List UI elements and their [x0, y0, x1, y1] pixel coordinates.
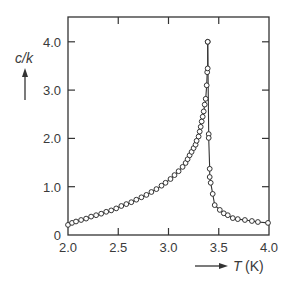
data-line — [208, 42, 268, 223]
data-point-marker — [124, 202, 129, 207]
x-axis-title-variable: T — [233, 258, 243, 274]
data-point-marker — [149, 190, 154, 195]
data-point-marker — [235, 217, 240, 222]
data-point-marker — [139, 195, 144, 200]
data-point-marker — [202, 102, 207, 107]
data-point-marker — [208, 180, 213, 185]
data-point-marker — [74, 219, 79, 224]
data-point-marker — [109, 208, 114, 213]
data-point-marker — [207, 175, 212, 180]
data-point-marker — [114, 206, 119, 211]
data-point-marker — [99, 211, 104, 216]
data-point-marker — [205, 66, 210, 71]
data-point-marker — [225, 213, 230, 218]
y-tick-label: 4.0 — [43, 35, 61, 50]
data-point-marker — [197, 129, 202, 134]
x-tick-label: 4.0 — [260, 240, 278, 255]
data-point-marker — [172, 173, 177, 178]
x-tick-label: 2.0 — [59, 240, 77, 255]
data-point-marker — [144, 193, 149, 198]
data-point-marker — [266, 221, 271, 226]
data-point-marker — [196, 134, 201, 139]
data-point-marker — [204, 83, 209, 88]
y-axis-arrow-icon — [22, 68, 28, 100]
plot-frame — [68, 17, 269, 235]
data-point-marker — [104, 209, 109, 214]
data-point-marker — [168, 177, 173, 182]
y-tick-label: 0 — [54, 228, 61, 243]
data-point-marker — [154, 187, 159, 192]
data-point-marker — [163, 180, 168, 185]
data-point-marker — [250, 219, 255, 224]
data-point-marker — [94, 213, 99, 218]
y-axis-title: c/k — [15, 50, 34, 66]
data-point-marker — [84, 216, 89, 221]
data-point-marker — [243, 218, 248, 223]
data-point-marker — [201, 109, 206, 114]
x-tick-label: 3.5 — [210, 240, 228, 255]
data-point-marker — [134, 197, 139, 202]
data-point-marker — [176, 169, 181, 174]
data-point-marker — [199, 119, 204, 124]
data-point-marker — [198, 124, 203, 129]
data-point-marker — [212, 203, 217, 208]
data-markers — [66, 39, 271, 227]
axis-ticks — [68, 17, 269, 235]
data-curves — [68, 42, 268, 225]
data-point-marker — [256, 220, 261, 225]
specific-heat-chart: 2.02.53.03.54.001.02.03.04.0 c/k T (K) — [0, 0, 290, 286]
data-point-marker — [206, 136, 211, 141]
x-axis-title-unit: (K) — [245, 258, 264, 274]
data-point-marker — [89, 214, 94, 219]
x-axis-arrow-icon — [195, 263, 228, 269]
y-tick-label: 3.0 — [43, 83, 61, 98]
data-point-marker — [200, 114, 205, 119]
y-tick-label: 2.0 — [43, 131, 61, 146]
data-point-marker — [119, 204, 124, 209]
data-point-marker — [207, 166, 212, 171]
data-point-marker — [203, 96, 208, 101]
data-point-marker — [129, 200, 134, 205]
y-tick-label: 1.0 — [43, 180, 61, 195]
data-point-marker — [230, 216, 235, 221]
data-point-marker — [210, 192, 215, 197]
x-tick-label: 3.0 — [159, 240, 177, 255]
data-point-marker — [79, 218, 84, 223]
data-point-marker — [205, 39, 210, 44]
x-tick-label: 2.5 — [109, 240, 127, 255]
